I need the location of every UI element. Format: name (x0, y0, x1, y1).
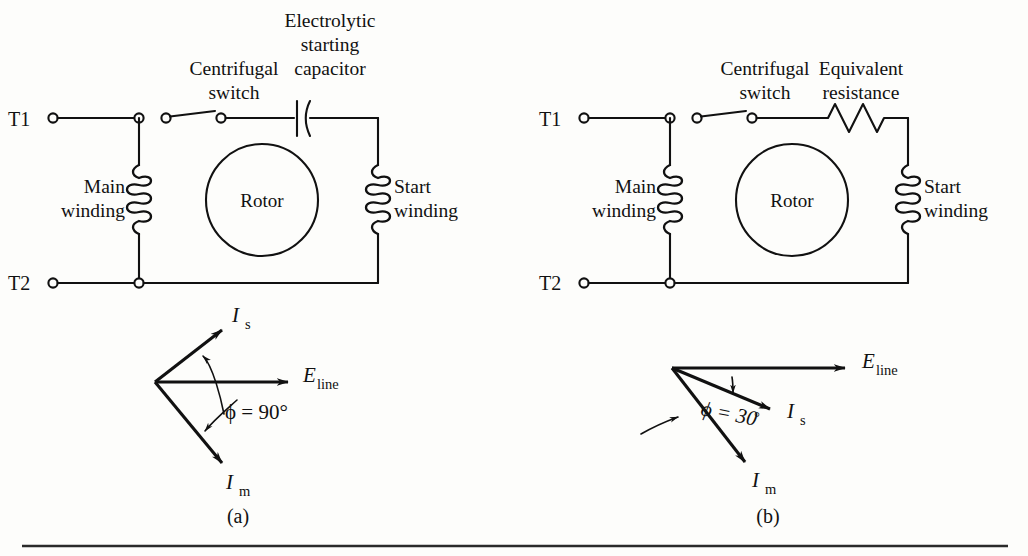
main-winding-label-line1-a: Main (84, 176, 125, 197)
angle-leader-up-a (203, 356, 224, 414)
resistance-label-b: Equivalent resistance (819, 58, 904, 103)
rotor-label-a: Rotor (240, 190, 284, 211)
caption-b: (b) (756, 505, 779, 528)
eline-subscript-a: line (317, 376, 339, 392)
phasor-vector-is-a (155, 330, 222, 382)
terminal-label-t1-b: T1 (539, 108, 561, 130)
switch-label-line1-b: Centrifugal (721, 58, 810, 79)
terminal-node-t1-a (48, 113, 57, 122)
start-winding-label-line2-b: winding (924, 200, 988, 221)
switch-contact-left-a[interactable] (161, 113, 170, 122)
switch-contact-right-b[interactable] (747, 113, 756, 122)
im-subscript-a: m (239, 483, 251, 499)
start-winding-coil-path-a (366, 165, 390, 234)
im-symbol-b: I (751, 468, 760, 492)
circuit-diagram-a: Centrifugal switch Electrolytic starting… (8, 10, 458, 294)
capacitor-label-line3: capacitor (294, 58, 366, 79)
resistance-label-line2: resistance (823, 82, 900, 103)
is-subscript-b: s (800, 412, 806, 428)
main-winding-label-b: Main winding (592, 176, 656, 221)
eline-symbol-a: E (302, 363, 316, 387)
start-winding-label-line1-a: Start (394, 176, 431, 197)
terminal-node-t2-a (48, 278, 57, 287)
main-winding-coil-a (127, 165, 151, 234)
phasor-diagram-b: ϕ = 30 ° I s I m E line (b) (641, 349, 898, 528)
junction-node-bottom-b (665, 278, 674, 287)
phasor-diagram-a: ϕ = 90° I s I m E line (a) (155, 303, 339, 528)
main-winding-coil-path-a (127, 165, 151, 234)
capacitor-label-line1: Electrolytic (285, 10, 376, 31)
terminal-node-t2-b (579, 278, 588, 287)
im-subscript-b: m (765, 481, 777, 497)
angle-leader-down-b (732, 377, 733, 393)
phase-angle-label-a: ϕ = 90° (225, 400, 288, 424)
switch-label-line1-a: Centrifugal (190, 58, 279, 79)
eline-subscript-b: line (876, 362, 898, 378)
terminal-label-t1-a: T1 (8, 108, 30, 130)
main-winding-label-line2-a: winding (61, 200, 125, 221)
start-winding-coil-b (896, 165, 920, 234)
terminal-label-t2-b: T2 (539, 272, 561, 294)
main-winding-coil-path-b (658, 165, 682, 234)
caption-a: (a) (227, 505, 249, 528)
terminal-label-t2-a: T2 (8, 272, 30, 294)
start-winding-coil-a (366, 165, 390, 234)
start-winding-coil-path-b (896, 165, 920, 234)
main-winding-label-line1-b: Main (615, 176, 656, 197)
start-winding-label-b: Start winding (924, 176, 988, 221)
capacitor-label-a: Electrolytic starting capacitor (285, 10, 376, 79)
is-subscript-a: s (245, 316, 251, 332)
phasor-label-im-a: I m (225, 470, 251, 499)
phasor-label-is-a: I s (231, 303, 251, 332)
capacitor-label-line2: starting (301, 34, 360, 55)
im-symbol-a: I (225, 470, 234, 494)
electrolytic-capacitor-symbol (297, 101, 310, 136)
start-winding-label-a: Start winding (394, 176, 458, 221)
circuit-diagram-b: Centrifugal switch Equivalent resistance… (539, 58, 988, 294)
main-winding-label-a: Main winding (61, 176, 125, 221)
centrifugal-switch-label-a: Centrifugal switch (190, 58, 279, 103)
resistance-label-line1: Equivalent (819, 58, 904, 79)
start-winding-label-line2-a: winding (394, 200, 458, 221)
phasor-label-is-b: I s (786, 399, 806, 428)
phasor-label-eline-a: E line (302, 363, 339, 392)
switch-contact-right-a[interactable] (216, 113, 225, 122)
switch-blade-a[interactable] (170, 111, 215, 117)
is-symbol-b: I (786, 399, 795, 423)
phasor-label-im-b: I m (751, 468, 777, 497)
switch-contact-left-b[interactable] (692, 113, 701, 122)
switch-blade-b[interactable] (701, 111, 746, 117)
angle-leader-left-b (641, 417, 678, 434)
phasor-label-eline-b: E line (861, 349, 898, 378)
is-symbol-a: I (231, 303, 240, 327)
eline-symbol-b: E (861, 349, 875, 373)
junction-node-bottom-a (134, 278, 143, 287)
switch-label-line2-a: switch (209, 82, 260, 103)
main-winding-coil-b (658, 165, 682, 234)
main-winding-label-line2-b: winding (592, 200, 656, 221)
figure-root: Centrifugal switch Electrolytic starting… (0, 0, 1028, 556)
centrifugal-switch-label-b: Centrifugal switch (721, 58, 810, 103)
rotor-label-b: Rotor (770, 190, 814, 211)
switch-label-line2-b: switch (740, 82, 791, 103)
terminal-node-t1-b (579, 113, 588, 122)
start-winding-label-line1-b: Start (924, 176, 961, 197)
figure-canvas: Centrifugal switch Electrolytic starting… (0, 0, 1028, 556)
resistor-symbol-b (820, 104, 908, 132)
